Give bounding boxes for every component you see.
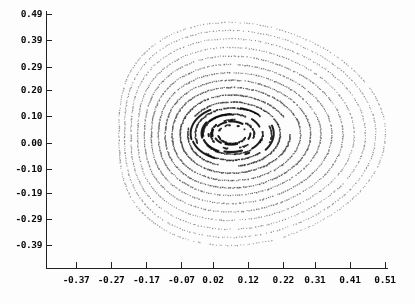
y-tick-label: -0.10 bbox=[15, 163, 42, 174]
y-tick-label: -0.39 bbox=[15, 239, 42, 250]
y-tick-label: 0.49 bbox=[21, 8, 42, 19]
y-tick-label: 0.20 bbox=[21, 84, 42, 95]
y-tick-label: 0.29 bbox=[21, 61, 42, 72]
y-tick-label: -0.19 bbox=[15, 187, 42, 198]
x-tick-label: 0.31 bbox=[298, 274, 332, 285]
x-tick-label: 0.12 bbox=[231, 274, 265, 285]
y-tick-label: 0.00 bbox=[21, 137, 42, 148]
x-tick-label: 0.41 bbox=[333, 274, 367, 285]
y-tick-label: -0.29 bbox=[15, 213, 42, 224]
phase-portrait-canvas bbox=[0, 0, 415, 304]
y-tick-label: 0.10 bbox=[21, 110, 42, 121]
x-tick-label: -0.07 bbox=[164, 274, 198, 285]
x-tick-label: 0.02 bbox=[196, 274, 230, 285]
y-tick-label: 0.39 bbox=[21, 34, 42, 45]
x-tick-label: -0.37 bbox=[59, 274, 93, 285]
x-tick-label: 0.51 bbox=[368, 274, 402, 285]
x-tick-label: -0.17 bbox=[129, 274, 163, 285]
poincare-section-figure: 0.490.390.290.200.100.00-0.10-0.19-0.29-… bbox=[0, 0, 415, 304]
x-tick-label: -0.27 bbox=[94, 274, 128, 285]
x-tick-label: 0.22 bbox=[266, 274, 300, 285]
